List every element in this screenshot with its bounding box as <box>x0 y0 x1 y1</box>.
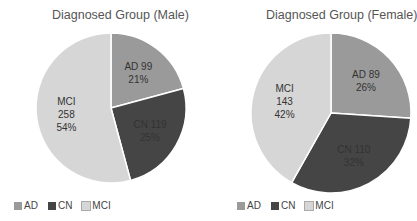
slice-label: 54% <box>56 122 76 133</box>
mci-swatch <box>305 202 313 210</box>
slice-label: MCI <box>275 83 293 94</box>
legend-item-cn: CN <box>271 200 295 211</box>
slice-label: 25% <box>140 132 160 143</box>
slice-label: 258 <box>58 109 75 120</box>
slice-label: 42% <box>275 109 295 120</box>
female-legend: AD CN MCI <box>237 200 334 211</box>
legend-item-ad: AD <box>14 200 38 211</box>
cn-swatch <box>271 202 279 210</box>
slice-label: 32% <box>344 157 364 168</box>
slice-label: MCI <box>57 96 75 107</box>
ad-swatch <box>14 202 22 210</box>
mci-swatch <box>82 202 90 210</box>
ad-swatch <box>237 202 245 210</box>
cn-swatch <box>48 202 56 210</box>
slice-label: 21% <box>128 74 148 85</box>
legend-item-ad: AD <box>237 200 261 211</box>
male-legend: AD CN MCI <box>14 200 111 211</box>
legend-item-mci: MCI <box>82 200 110 211</box>
slice-label: 26% <box>356 82 376 93</box>
legend-item-mci: MCI <box>305 200 333 211</box>
slice-label: AD 89 <box>352 69 380 80</box>
slice-label: CN 119 <box>133 119 167 130</box>
slice-label: AD 99 <box>124 61 152 72</box>
legend-item-cn: CN <box>48 200 72 211</box>
slice-label: CN 110 <box>337 144 371 155</box>
slice-label: 143 <box>276 96 293 107</box>
